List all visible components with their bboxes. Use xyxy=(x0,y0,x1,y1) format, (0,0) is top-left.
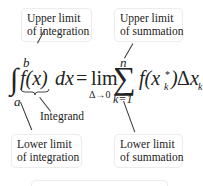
equals-sign: = xyxy=(76,67,87,90)
integrand-label: Integrand xyxy=(40,110,84,122)
callout-text-line1: Lower limit xyxy=(17,138,76,151)
callout-text-line1: Lower limit xyxy=(120,138,177,151)
differential: dx xyxy=(55,67,74,90)
callout-text-line1: Upper limit xyxy=(120,12,177,25)
summation-lower-bound: k=1 xyxy=(113,92,132,107)
term-f: f(x xyxy=(139,67,160,90)
callout-upper-limit-summation: Upper limit of summation xyxy=(114,8,183,42)
term-sub: k xyxy=(164,81,168,92)
callout-text-line1: Upper limit xyxy=(27,12,86,25)
callout-text-line2: of integration xyxy=(17,151,76,164)
integral-sign: ∫ xyxy=(10,62,18,96)
leader-line-lower-integration xyxy=(20,102,32,130)
limit-subscript: Δ→0 xyxy=(89,89,110,100)
term-x-sub: k xyxy=(198,81,202,92)
underbrace-icon xyxy=(20,88,50,96)
callout-text-line2: of summation xyxy=(120,25,177,38)
callout-lower-limit-summation: Lower limit of summation xyxy=(114,134,183,168)
delta: Δ xyxy=(177,67,190,90)
integral-lower-bound: a xyxy=(14,94,21,110)
summation-upper-bound: n xyxy=(120,55,127,71)
cutoff-box xyxy=(31,180,168,186)
callout-lower-limit-integration: Lower limit of integration xyxy=(11,134,82,168)
term-sup: * xyxy=(165,69,170,80)
integrand-expression: f(x) xyxy=(20,67,48,90)
callout-text-line2: of summation xyxy=(120,151,177,164)
callout-text-line2: of integration xyxy=(27,25,86,38)
callout-upper-limit-integration: Upper limit of integration xyxy=(21,8,92,42)
